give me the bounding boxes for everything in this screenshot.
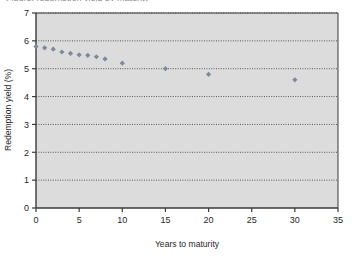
y-tick-label-0: 0 bbox=[24, 203, 29, 213]
x-tick-label-5: 5 bbox=[77, 215, 82, 225]
y-tick-label-1: 1 bbox=[24, 175, 29, 185]
cropped-caption-text: Figure: redemption yield by maturity bbox=[6, 0, 149, 1]
y-tick-label-7: 7 bbox=[24, 8, 29, 18]
y-tick-label-3: 3 bbox=[24, 120, 29, 130]
plot-area-background bbox=[36, 13, 338, 208]
x-tick-label-15: 15 bbox=[160, 215, 170, 225]
x-tick-label-20: 20 bbox=[204, 215, 214, 225]
x-tick-label-0: 0 bbox=[33, 215, 38, 225]
x-tick-label-25: 25 bbox=[247, 215, 257, 225]
x-axis-title: Years to maturity bbox=[155, 239, 220, 249]
y-tick-label-4: 4 bbox=[24, 92, 29, 102]
y-tick-label-2: 2 bbox=[24, 148, 29, 158]
chart-figure: Figure: redemption yield by maturity 012… bbox=[0, 0, 355, 258]
x-tick-label-30: 30 bbox=[290, 215, 300, 225]
x-axis-ticks-group: 05101520253035 bbox=[33, 208, 343, 225]
redemption-yield-scatter-chart: 01234567 05101520253035 Redemption yield… bbox=[0, 0, 355, 258]
x-tick-label-10: 10 bbox=[117, 215, 127, 225]
y-tick-label-6: 6 bbox=[24, 36, 29, 46]
y-axis-title: Redemption yield (%) bbox=[3, 69, 13, 151]
y-axis-ticks-group: 01234567 bbox=[24, 8, 36, 213]
y-tick-label-5: 5 bbox=[24, 64, 29, 74]
x-tick-label-35: 35 bbox=[333, 215, 343, 225]
